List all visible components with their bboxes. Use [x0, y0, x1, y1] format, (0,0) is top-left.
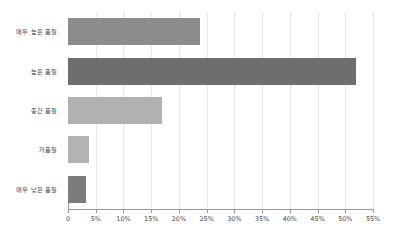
bar-row	[68, 18, 373, 45]
x-axis-tick-label: 25%	[200, 215, 214, 223]
x-axis-tick-label: 30%	[227, 215, 241, 223]
x-axis-tick-label: 55%	[366, 215, 380, 223]
bar	[68, 58, 356, 85]
x-axis-tick-label: 35%	[255, 215, 269, 223]
x-axis-tick-label: 10%	[116, 215, 130, 223]
gridline	[373, 12, 374, 209]
x-axis-tick-label: 50%	[338, 215, 352, 223]
bar-series	[68, 12, 373, 209]
x-axis-tick	[373, 209, 374, 213]
x-axis-tick	[262, 209, 263, 213]
bar	[68, 18, 200, 45]
x-axis-tick	[68, 209, 69, 213]
x-axis-tick	[207, 209, 208, 213]
x-axis-tick-label: 20%	[172, 215, 186, 223]
x-axis-tick	[151, 209, 152, 213]
x-axis-tick-label: 45%	[310, 215, 324, 223]
category-label: 높은 품질	[0, 58, 62, 85]
category-axis-labels: 매우 높은 품질 높은 품질 중간 품질 저품질 매우 낮은 품질	[0, 12, 62, 209]
x-axis-tick	[123, 209, 124, 213]
bar	[68, 176, 86, 203]
x-axis-tick	[96, 209, 97, 213]
x-axis-tick	[345, 209, 346, 213]
bar	[68, 136, 89, 163]
bar-chart: 매우 높은 품질 높은 품질 중간 품질 저품질 매우 낮은 품질 05%10%…	[0, 0, 398, 247]
plot-area	[68, 12, 373, 209]
category-label: 중간 품질	[0, 97, 62, 124]
bar-row	[68, 136, 373, 163]
x-axis-tick	[179, 209, 180, 213]
bar-row	[68, 97, 373, 124]
bar	[68, 97, 162, 124]
category-label: 저품질	[0, 136, 62, 163]
x-axis-tick	[290, 209, 291, 213]
x-axis-ticks	[68, 209, 373, 214]
category-label: 매우 낮은 품질	[0, 176, 62, 203]
x-axis-tick-label: 5%	[91, 215, 101, 223]
x-axis-tick-label: 15%	[144, 215, 158, 223]
x-axis-tick-label: 40%	[283, 215, 297, 223]
x-axis-tick-label: 0	[66, 215, 70, 223]
bar-row	[68, 176, 373, 203]
x-axis-tick-labels: 05%10%15%20%25%30%35%40%45%50%55%	[68, 215, 373, 229]
category-label: 매우 높은 품질	[0, 18, 62, 45]
bar-row	[68, 58, 373, 85]
x-axis-tick	[234, 209, 235, 213]
x-axis-tick	[318, 209, 319, 213]
